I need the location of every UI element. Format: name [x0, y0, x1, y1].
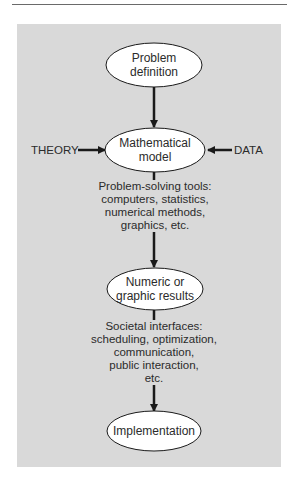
node-label-implementation: Implementation — [104, 424, 204, 438]
edge-label-line: public interaction, — [79, 359, 229, 372]
node-label-line: Implementation — [104, 424, 204, 438]
node-label-mathematical-model: Mathematical model — [105, 136, 205, 164]
edge-label-line: etc. — [79, 372, 229, 385]
node-label-numeric-results: Numeric or graphic results — [105, 275, 205, 303]
input-data: DATA — [234, 144, 263, 157]
node-label-line: graphic results — [105, 289, 205, 303]
edge-label-problem-solving-tools: Problem-solving tools: computers, statis… — [84, 180, 226, 232]
node-label-line: Problem — [104, 51, 204, 65]
node-label-line: definition — [104, 65, 204, 79]
node-label-problem-definition: Problem definition — [104, 51, 204, 79]
edge-label-line: graphics, etc. — [85, 219, 225, 232]
edge-label-societal-interfaces: Societal interfaces: scheduling, optimiz… — [78, 320, 230, 385]
node-label-line: model — [105, 150, 205, 164]
node-label-line: Mathematical — [105, 136, 205, 150]
edge-label-line: scheduling, optimization, — [79, 333, 229, 346]
edge-label-line: Problem-solving tools: — [85, 180, 225, 193]
edge-label-line: communication, — [79, 346, 229, 359]
edge-label-line: computers, statistics, — [85, 193, 225, 206]
node-label-line: Numeric or — [105, 275, 205, 289]
edge-label-line: Societal interfaces: — [79, 320, 229, 333]
input-theory: THEORY — [31, 144, 79, 157]
edge-label-line: numerical methods, — [85, 206, 225, 219]
